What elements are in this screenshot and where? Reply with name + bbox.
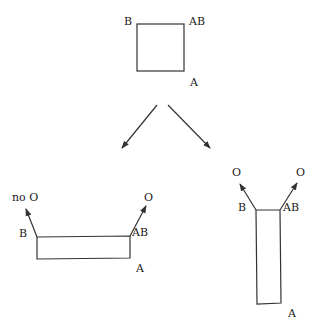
wide-rect-group: no O O B AB A [12,191,153,275]
tall-label-o-right: O [296,166,305,179]
tall-label-b: B [238,201,246,214]
top-label-a: A [189,76,199,89]
wide-rectangle [37,236,130,259]
wide-label-a: A [135,262,145,275]
top-square [137,24,184,71]
branch-arrow-left-icon [122,105,157,148]
wide-arrow-left-icon [26,209,37,237]
tall-rect-group: O O B AB A [232,166,305,320]
top-label-ab: AB [188,15,205,28]
wide-label-o: O [144,191,153,204]
tall-label-a: A [287,307,297,320]
branch-arrow-right-icon [168,105,210,148]
wide-label-ab: AB [131,226,148,239]
tall-label-ab: AB [282,201,299,214]
tall-label-o-left: O [232,166,241,179]
wide-label-no-o: no O [12,191,38,204]
deformation-diagram: B AB A no O O B AB A O O B AB A [0,0,315,329]
top-square-group: B AB A [124,15,205,89]
top-label-b: B [124,15,132,28]
wide-label-b: B [19,227,27,240]
tall-rectangle [256,210,281,304]
